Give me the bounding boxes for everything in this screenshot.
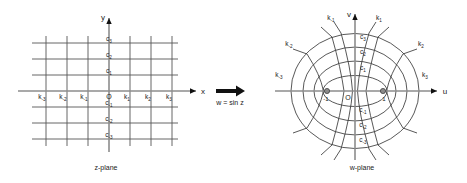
z-c-label-c1: c1 xyxy=(106,67,112,76)
w-k2-ext-bottom xyxy=(378,145,389,155)
z-c-label-c2: c2 xyxy=(106,51,112,60)
mapping-formula-label: w = sin z xyxy=(215,99,244,106)
w-plane-focus-left-label: -1 xyxy=(323,96,329,102)
w-plane-focus-right-label: 1 xyxy=(382,96,386,102)
z-k-label-k1: k1 xyxy=(124,93,130,102)
w-v-axis-arrowhead-icon xyxy=(352,14,357,20)
w-k-label-km3: k-3 xyxy=(275,71,283,80)
w-k1-ext-bottom xyxy=(334,149,341,160)
w-km2-ext-top xyxy=(321,27,332,37)
z-plane-diagram: x y O k-3 k-2 k-1 k1 k2 k3 c3 c2 c1 c-1 … xyxy=(18,13,205,172)
w-plane-u-axis-label: u xyxy=(443,87,447,96)
z-k-label-km2: k-2 xyxy=(59,93,67,102)
mapping-arrow-group: w = sin z xyxy=(215,86,245,107)
z-x-axis-arrowhead-icon xyxy=(190,88,196,93)
z-y-axis-arrowhead-icon xyxy=(106,18,111,24)
z-k-label-km3: k-3 xyxy=(38,93,46,102)
w-km1-ext-bottom xyxy=(369,149,376,160)
conformal-mapping-figure: x y O k-3 k-2 k-1 k1 k2 k3 c3 c2 c1 c-1 … xyxy=(0,0,467,183)
right-arrow-icon xyxy=(216,86,245,97)
w-plane-axes xyxy=(275,14,437,160)
w-plane-v-axis-label: v xyxy=(347,10,351,19)
z-k-label-k3: k3 xyxy=(166,93,172,102)
w-k-label-km1: k-1 xyxy=(327,14,335,23)
w-c-label-c2: c2 xyxy=(360,48,366,57)
w-k-label-k3: k3 xyxy=(422,71,428,80)
w-k-label-k1: k1 xyxy=(376,14,382,23)
w-km2-ext-bottom xyxy=(321,145,332,155)
z-plane-y-axis-label: y xyxy=(101,13,105,22)
w-u-axis-arrowhead-icon xyxy=(431,88,437,93)
w-k-label-km2: k-2 xyxy=(285,40,293,49)
w-plane-caption: w-plane xyxy=(349,164,375,172)
w-k1-ext-top xyxy=(334,22,341,33)
w-k3-ext-top xyxy=(403,49,417,54)
w-km3-ext-bottom xyxy=(293,128,307,133)
w-plane-diagram: u v O -1 1 k-1 k-2 k-3 k1 k2 k3 c3 c2 xyxy=(275,10,447,172)
w-k-label-k2: k2 xyxy=(418,40,424,49)
w-plane-origin-label: O xyxy=(345,94,351,101)
w-km1-ext-top xyxy=(369,22,376,33)
z-k-label-k2: k2 xyxy=(145,93,151,102)
w-focus-left-dot xyxy=(324,88,329,93)
w-km3-ext-top xyxy=(293,49,307,54)
z-c-label-c3: c3 xyxy=(106,35,112,44)
w-c-label-cm2: c-2 xyxy=(359,121,367,130)
z-plane-x-axis-label: x xyxy=(201,87,205,96)
w-c-label-c1: c1 xyxy=(360,64,366,73)
w-k3-ext-bottom xyxy=(403,128,417,133)
z-k-label-km1: k-1 xyxy=(80,93,88,102)
w-k2-ext-top xyxy=(378,27,389,37)
w-focus-right-dot xyxy=(380,88,385,93)
z-plane-caption: z-plane xyxy=(95,164,118,172)
